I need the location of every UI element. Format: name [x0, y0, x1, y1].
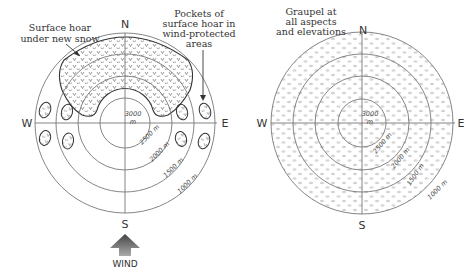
- pocket: [174, 130, 189, 147]
- west-label: W: [22, 117, 33, 130]
- north-label: N: [359, 24, 367, 37]
- south-label: S: [359, 219, 366, 232]
- svg-text:under new snow: under new snow: [20, 33, 99, 44]
- wind-arrow-icon: [110, 234, 140, 256]
- left-aspect-elevation-rose: N S W E 3000 m 2500 m 2000 m 1500 m 1000…: [20, 8, 235, 269]
- elevation-label-3000: 3000: [362, 110, 379, 118]
- elevation-label-1500: 1500 m: [162, 156, 185, 179]
- annotation-graupel: Graupel at all aspects and elevations: [276, 6, 346, 37]
- pocket: [197, 102, 213, 121]
- elevation-label-3000: 3000: [125, 110, 142, 118]
- pocket: [196, 132, 212, 151]
- elevation-unit-label: m: [367, 118, 373, 126]
- right-aspect-elevation-rose: N S W E 3000 m 2500 m 2000 m 1500 m 1000…: [257, 6, 465, 232]
- elevation-label-2000: 2000 m: [148, 140, 171, 163]
- west-label: W: [257, 117, 268, 130]
- east-label: E: [458, 117, 465, 130]
- svg-text:areas: areas: [186, 38, 212, 49]
- east-label: E: [222, 117, 229, 130]
- pocket: [61, 132, 75, 150]
- pocket: [38, 129, 53, 146]
- north-label: N: [121, 18, 129, 31]
- pointer-arrowhead-icon: [200, 95, 206, 101]
- elevation-unit-label: m: [130, 118, 136, 126]
- surface-hoar-region: [59, 37, 192, 116]
- wind-label: WIND: [112, 259, 137, 269]
- diagram-canvas: N S W E 3000 m 2500 m 2000 m 1500 m 1000…: [0, 0, 475, 279]
- elevation-label-1000: 1000 m: [176, 172, 199, 195]
- south-label: S: [122, 218, 129, 231]
- svg-text:and elevations: and elevations: [276, 26, 346, 37]
- svg-text:Surface hoar: Surface hoar: [29, 22, 92, 33]
- pocket: [37, 101, 53, 120]
